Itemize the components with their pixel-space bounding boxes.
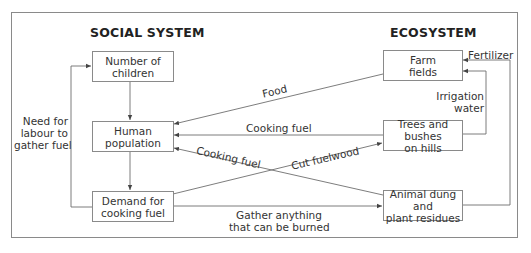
edge-label-line: Gather anything [229, 209, 329, 221]
node-animal-dung: Animal dung and plant residues [383, 190, 463, 221]
edge-label-line: labour to [14, 127, 68, 139]
edge-label-line: Need for [14, 115, 68, 127]
node-human-population: Human population [92, 121, 174, 152]
node-label: Number of [105, 55, 161, 67]
node-label: cooking fuel [101, 207, 165, 219]
node-label: Demand for [102, 195, 164, 207]
edge-label-fertilizer: Fertilizer [468, 49, 513, 61]
node-label: Human [114, 125, 152, 137]
edge-label-need-for-labour: Need for labour to gather fuel [14, 115, 68, 151]
edge-label-line: Irrigation [436, 90, 484, 102]
social-system-title: SOCIAL SYSTEM [90, 25, 205, 40]
node-trees-and-bushes: Trees and bushes on hills [383, 120, 463, 151]
node-label: Trees and bushes [384, 118, 462, 142]
node-label: children [112, 67, 154, 79]
edge-label-line: that can be burned [229, 221, 329, 233]
node-label: on hills [404, 142, 441, 154]
node-demand-for-cooking-fuel: Demand for cooking fuel [92, 191, 174, 222]
node-label: fields [409, 66, 437, 78]
edge-label-line: gather fuel [14, 139, 68, 151]
node-number-of-children: Number of children [92, 51, 174, 82]
edge-label-cooking-fuel-trees: Cooking fuel [246, 122, 312, 134]
node-label: plant residues [386, 212, 460, 224]
node-farm-fields: Farm fields [383, 50, 463, 81]
edge-label-line: water [436, 102, 484, 114]
node-label: Animal dung and [384, 188, 462, 212]
edge-label-gather: Gather anything that can be burned [229, 209, 329, 233]
node-label: population [105, 137, 161, 149]
edge-label-irrigation-water: Irrigation water [436, 90, 484, 114]
node-label: Farm [410, 54, 436, 66]
ecosystem-title: ECOSYSTEM [390, 25, 477, 40]
